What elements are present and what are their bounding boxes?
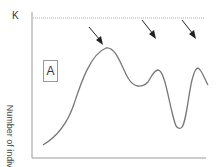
arrow-icon (142, 20, 156, 39)
carrying-capacity-label: K (12, 10, 19, 21)
arrow-icon (182, 20, 196, 39)
arrow-icon (89, 27, 103, 45)
population-curve (43, 48, 208, 145)
population-chart (0, 0, 217, 167)
y-axis-label: Number of individuals (3, 88, 15, 167)
panel-label: A (43, 60, 58, 82)
